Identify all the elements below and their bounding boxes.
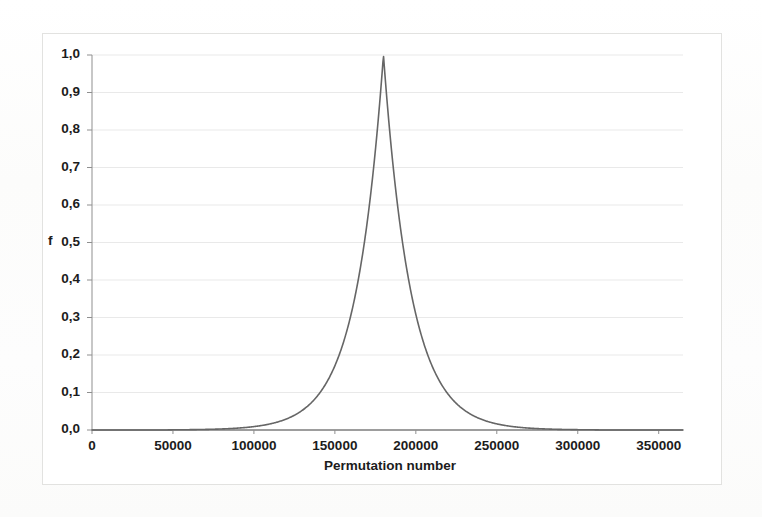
y-tick-label: 0,3 — [40, 309, 80, 324]
y-axis-title: f — [48, 233, 53, 248]
x-tick-label: 50000 — [128, 438, 218, 453]
y-tick-label: 0,8 — [40, 121, 80, 136]
chart-frame — [42, 33, 722, 485]
x-axis-title: Permutation number — [240, 458, 540, 473]
y-tick-label: 0,2 — [40, 346, 80, 361]
y-tick-label: 0,4 — [40, 271, 80, 286]
x-tick-label: 150000 — [290, 438, 380, 453]
y-tick-label: 1,0 — [40, 46, 80, 61]
y-tick-label: 0,9 — [40, 84, 80, 99]
x-tick-label: 350000 — [614, 438, 704, 453]
x-tick-label: 0 — [47, 438, 137, 453]
y-tick-label: 0,5 — [40, 234, 80, 249]
y-tick-label: 0,7 — [40, 159, 80, 174]
y-tick-label: 0,0 — [40, 421, 80, 436]
x-tick-label: 250000 — [452, 438, 542, 453]
x-tick-label: 200000 — [371, 438, 461, 453]
scanned-page: 0,00,10,20,30,40,50,60,70,80,91,0 050000… — [0, 0, 762, 517]
x-tick-label: 300000 — [533, 438, 623, 453]
y-tick-label: 0,1 — [40, 384, 80, 399]
x-tick-label: 100000 — [209, 438, 299, 453]
y-tick-label: 0,6 — [40, 196, 80, 211]
